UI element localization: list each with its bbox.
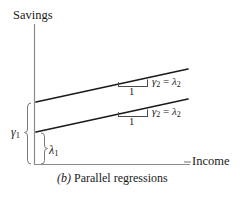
lambda1-brace — [41, 133, 48, 164]
lambda1-subscript: 1 — [54, 148, 58, 158]
slope-equation-upper: γ2 = λ2 — [152, 76, 181, 89]
slope-run-label-upper: 1 — [129, 87, 134, 98]
gamma1-subscript: 1 — [16, 130, 20, 140]
y-axis-label: Savings — [13, 9, 53, 22]
slope-equation-lower: γ2 = λ2 — [152, 106, 181, 119]
gamma1-label: γ1 — [11, 126, 20, 140]
x-axis-label: Income — [192, 155, 229, 168]
slope-upper-operator: = — [160, 75, 172, 87]
slope-lower-rhs-subscript: 2 — [177, 110, 181, 119]
slope-run-label-lower: 1 — [129, 117, 134, 128]
caption-marker: (b) — [57, 171, 71, 185]
gamma1-brace — [25, 103, 32, 164]
caption-text: Parallel regressions — [71, 171, 168, 185]
slope-lower-operator: = — [160, 105, 172, 117]
parallel-regressions-figure: Savings Income γ1 λ1 γ2 = λ2 1 γ2 = λ2 1… — [0, 0, 240, 197]
lambda1-label: λ1 — [49, 144, 58, 158]
slope-upper-rhs-subscript: 2 — [177, 80, 181, 89]
figure-caption: (b) Parallel regressions — [57, 172, 168, 184]
